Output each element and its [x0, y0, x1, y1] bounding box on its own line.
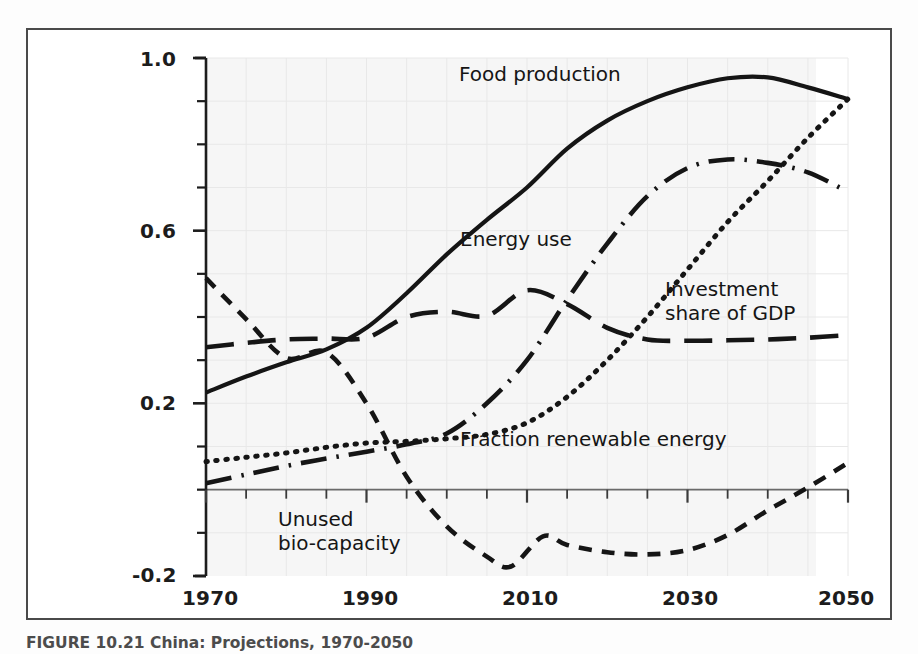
y-tick-label-0-2: 0.2: [140, 391, 176, 415]
series-label-food-production: Food production: [459, 63, 621, 87]
y-axis-ticks: [193, 58, 206, 576]
y-tick-label-neg-0-2: -0.2: [132, 563, 177, 587]
series-label-investment-line2: share of GDP: [665, 301, 795, 325]
figure-caption: FIGURE 10.21 China: Projections, 1970-20…: [26, 634, 413, 654]
x-tick-label-2030: 2030: [662, 586, 718, 610]
figure-frame: 1.0 0.6 0.2 -0.2 1970 1990 2010 2030 205…: [26, 28, 892, 620]
series-label-investment-share: Investment share of GDP: [665, 278, 840, 325]
series-label-investment-line1: Investment: [665, 277, 778, 301]
x-tick-label-2010: 2010: [502, 586, 558, 610]
x-tick-label-2050: 2050: [818, 586, 874, 610]
figure-page: 1.0 0.6 0.2 -0.2 1970 1990 2010 2030 205…: [0, 0, 918, 654]
series-label-energy-use: Energy use: [460, 228, 572, 252]
series-label-fraction-renewable: Fraction renewable energy: [460, 428, 726, 452]
x-tick-label-1990: 1990: [342, 586, 398, 610]
x-tick-label-1970: 1970: [182, 586, 238, 610]
series-label-unused-line1: Unused: [278, 507, 353, 531]
series-label-unused-line2: bio-capacity: [278, 531, 401, 555]
series-label-unused-bio-capacity: Unused bio-capacity: [278, 508, 438, 555]
y-axis: [193, 58, 206, 576]
y-tick-label-0-6: 0.6: [140, 219, 176, 243]
y-tick-label-1-0: 1.0: [140, 47, 176, 71]
